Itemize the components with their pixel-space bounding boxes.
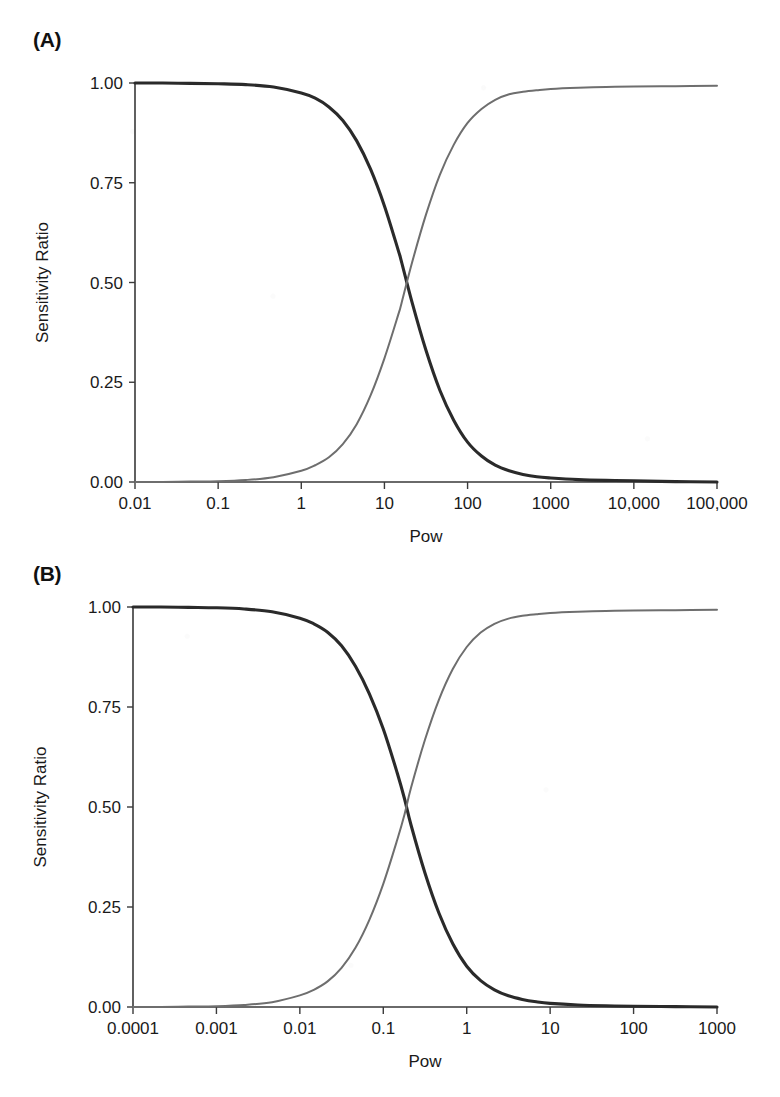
x-tick-label: 1000 [532, 494, 570, 513]
y-tick-label: 0.00 [90, 473, 123, 492]
plot-area-b: 0.000.250.500.751.000.00010.0010.010.111… [0, 548, 780, 1097]
x-tick-label: 0.1 [206, 494, 230, 513]
y-tick-label: 0.75 [90, 174, 123, 193]
x-tick-label: 1 [462, 1019, 471, 1038]
curve-ascending [135, 86, 717, 482]
x-tick-label: 0.1 [371, 1019, 395, 1038]
y-tick-label: 0.75 [88, 698, 121, 717]
x-tick-label: 0.0001 [107, 1019, 159, 1038]
y-tick-label: 0.50 [90, 274, 123, 293]
y-axis-title: Sensitivity Ratio [31, 747, 50, 868]
chart-panel-a: (A) 0.000.250.500.751.000.010.1110100100… [0, 0, 780, 548]
y-tick-label: 0.25 [88, 898, 121, 917]
y-axis-title: Sensitivity Ratio [33, 222, 52, 343]
x-tick-label: 100 [453, 494, 481, 513]
x-tick-label: 100 [619, 1019, 647, 1038]
curve-descending [133, 607, 717, 1007]
y-tick-label: 0.00 [88, 998, 121, 1017]
y-tick-label: 1.00 [90, 74, 123, 93]
x-tick-label: 10,000 [608, 494, 660, 513]
x-tick-label: 0.001 [195, 1019, 238, 1038]
x-tick-label: 100,000 [686, 494, 747, 513]
y-tick-label: 0.25 [90, 373, 123, 392]
x-tick-label: 1 [297, 494, 306, 513]
chart-panel-b: (B) 0.000.250.500.751.000.00010.0010.010… [0, 548, 780, 1097]
x-tick-label: 10 [375, 494, 394, 513]
curve-descending [135, 83, 717, 482]
curve-ascending [133, 610, 717, 1007]
y-tick-label: 0.50 [88, 798, 121, 817]
y-tick-label: 1.00 [88, 598, 121, 617]
x-tick-label: 10 [541, 1019, 560, 1038]
plot-area-a: 0.000.250.500.751.000.010.1110100100010,… [0, 0, 780, 548]
x-tick-label: 0.01 [283, 1019, 316, 1038]
x-axis-title: Pow [409, 527, 443, 546]
x-axis-title: Pow [408, 1052, 442, 1071]
x-tick-label: 0.01 [118, 494, 151, 513]
x-tick-label: 1000 [698, 1019, 736, 1038]
